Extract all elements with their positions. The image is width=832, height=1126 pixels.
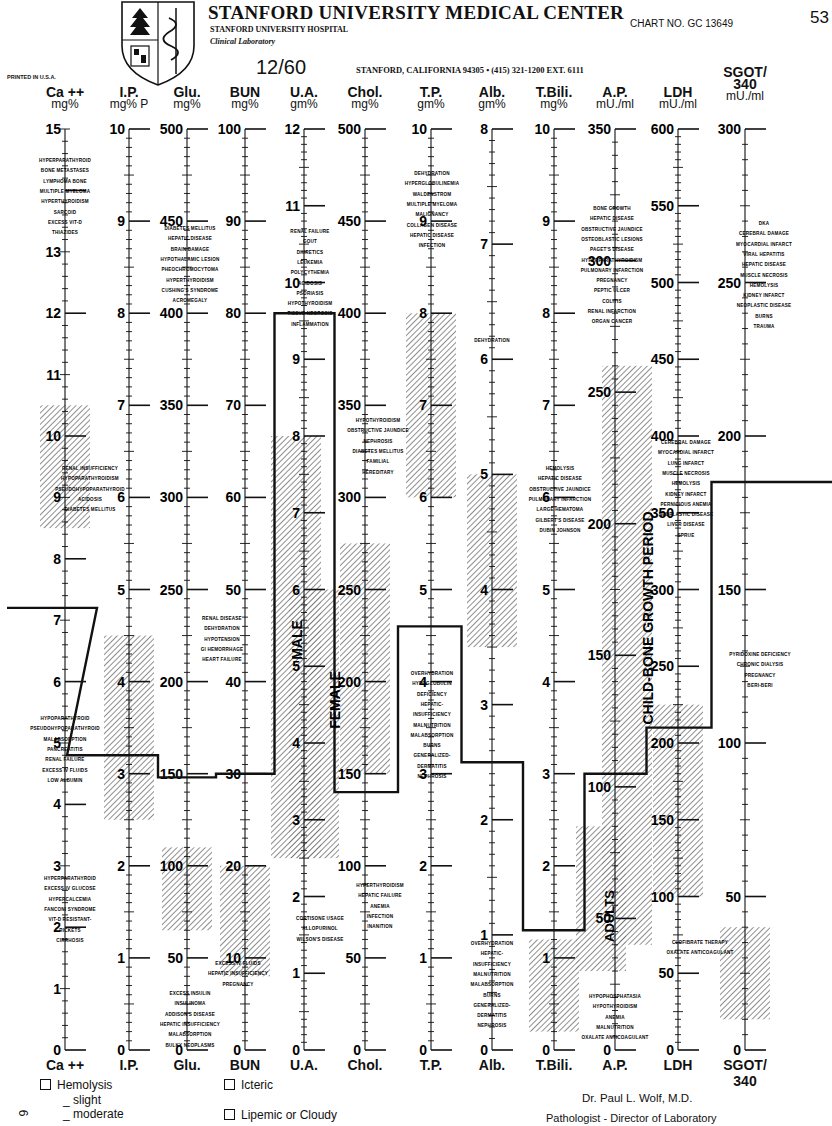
svg-text:COLLAGEN DISEASE: COLLAGEN DISEASE (407, 223, 457, 228)
hemolysis-checkbox-row[interactable]: Hemolysis (40, 1078, 112, 1092)
svg-text:DERMATITIS: DERMATITIS (477, 1013, 507, 1018)
svg-text:7: 7 (480, 236, 488, 252)
svg-text:CEREBRAL DAMAGE: CEREBRAL DAMAGE (661, 440, 711, 445)
svg-text:INFLAMMATION: INFLAMMATION (291, 322, 329, 327)
slight-option[interactable]: _ slight (63, 1093, 101, 1107)
doctor-title: Pathologist - Director of Laboratory (546, 1112, 717, 1124)
svg-text:PSEUDOHYPOPARATHYROID: PSEUDOHYPOPARATHYROID (30, 726, 100, 731)
svg-text:CLOFIBRATE THERAPY: CLOFIBRATE THERAPY (672, 940, 728, 945)
svg-text:0: 0 (117, 1042, 125, 1058)
svg-text:KIDNEY INFARCT: KIDNEY INFARCT (665, 492, 706, 497)
svg-text:BONE METASTASES: BONE METASTASES (41, 168, 89, 173)
svg-text:HYPOTHALAMIC LESION: HYPOTHALAMIC LESION (160, 257, 220, 262)
svg-text:350: 350 (338, 397, 362, 413)
svg-text:OBSTRUCTIVE JAUNDICE: OBSTRUCTIVE JAUNDICE (347, 428, 409, 433)
svg-text:CUSHING'S SYNDROME: CUSHING'S SYNDROME (162, 288, 219, 293)
svg-text:VIRAL HEPATITIS: VIRAL HEPATITIS (743, 252, 784, 257)
lipemic-checkbox-row[interactable]: Lipemic or Cloudy (224, 1108, 337, 1122)
svg-text:HYPOTHYROIDISM: HYPOTHYROIDISM (593, 1004, 638, 1009)
svg-text:HEREDITARY: HEREDITARY (362, 470, 393, 475)
svg-text:4: 4 (542, 674, 550, 690)
svg-text:200: 200 (160, 674, 184, 690)
svg-text:0: 0 (292, 1042, 300, 1058)
svg-text:400: 400 (338, 305, 362, 321)
moderate-option[interactable]: _ moderate (63, 1107, 124, 1121)
svg-text:CORTISONE USAGE: CORTISONE USAGE (296, 916, 344, 921)
svg-text:9: 9 (117, 213, 125, 229)
svg-text:100: 100 (588, 779, 612, 795)
svg-text:MALABSORPTION: MALABSORPTION (43, 737, 87, 742)
svg-text:DKA: DKA (759, 221, 770, 226)
svg-text:CIRRHOSIS: CIRRHOSIS (56, 938, 83, 943)
svg-text:3: 3 (292, 812, 300, 828)
svg-text:1: 1 (53, 981, 61, 997)
svg-text:9: 9 (292, 351, 300, 367)
svg-text:7: 7 (419, 397, 427, 413)
svg-text:WALDENSTROM: WALDENSTROM (413, 192, 452, 197)
svg-text:CHRONIC DIALYSIS: CHRONIC DIALYSIS (737, 662, 784, 667)
svg-text:1: 1 (117, 950, 125, 966)
svg-text:LOW ALBUMIN: LOW ALBUMIN (47, 778, 83, 783)
svg-text:KIDNEY INFARCT: KIDNEY INFARCT (743, 293, 784, 298)
svg-text:90: 90 (225, 213, 241, 229)
svg-text:8: 8 (480, 121, 488, 137)
svg-text:MULTIPLE MYELOMA: MULTIPLE MYELOMA (40, 189, 91, 194)
icteric-checkbox-row[interactable]: Icteric (224, 1078, 273, 1092)
svg-text:150: 150 (588, 647, 612, 663)
svg-text:11: 11 (285, 198, 300, 214)
svg-text:6: 6 (419, 489, 427, 505)
svg-text:500: 500 (160, 121, 184, 137)
svg-text:HEART FAILURE: HEART FAILURE (202, 657, 241, 662)
svg-text:MALIGNANCY: MALIGNANCY (415, 212, 448, 217)
svg-text:5: 5 (419, 582, 427, 598)
annotation-ua-low: CORTISONE USAGEALLOPURINOLWILSON'S DISEA… (296, 916, 344, 942)
svg-text:5: 5 (480, 466, 488, 482)
hemolysis-label: Hemolysis (57, 1078, 112, 1092)
annotation-glu-low: EXCESS INSULININSULINOMAADDISON'S DISEAS… (160, 991, 220, 1048)
svg-text:GENERALIZED-: GENERALIZED- (414, 753, 451, 758)
svg-text:50: 50 (725, 889, 741, 905)
annotation-alb-low: OVERHYDRATIONHEPATIC-INSUFFICIENCYMALNUT… (470, 941, 514, 1028)
chemistry-profile-chart: 1513121110987654321010987654321050045040… (0, 0, 832, 1126)
svg-text:15: 15 (45, 121, 61, 137)
svg-text:450: 450 (338, 213, 362, 229)
svg-text:550: 550 (651, 198, 675, 214)
svg-text:DIURETICS: DIURETICS (297, 250, 324, 255)
svg-text:2: 2 (117, 858, 125, 874)
svg-text:3: 3 (542, 766, 550, 782)
svg-text:HYPERPARATHYROID: HYPERPARATHYROID (39, 158, 92, 163)
svg-text:4: 4 (480, 582, 488, 598)
hemolysis-checkbox[interactable] (40, 1079, 51, 1090)
icteric-label: Icteric (241, 1078, 273, 1092)
svg-text:8: 8 (53, 551, 61, 567)
svg-text:HEPATIC DISEASE: HEPATIC DISEASE (410, 233, 454, 238)
svg-text:OBSTRUCTIVE JAUNDICE: OBSTRUCTIVE JAUNDICE (529, 487, 591, 492)
svg-text:200: 200 (588, 516, 612, 532)
svg-text:150: 150 (651, 812, 675, 828)
annotation-chol-low: HYPERTHYROIDISMHEPATIC FAILUREANEMIAINFE… (356, 883, 404, 929)
svg-text:MALABSORPTION: MALABSORPTION (470, 982, 514, 987)
svg-text:HEPATIC-: HEPATIC- (481, 951, 504, 956)
svg-text:MUSCLE NECROSIS: MUSCLE NECROSIS (740, 273, 788, 278)
svg-text:GENERALIZED-: GENERALIZED- (474, 1003, 511, 1008)
svg-text:HEPATIC FAILURE: HEPATIC FAILURE (358, 893, 401, 898)
svg-text:ADDISON'S DISEASE: ADDISON'S DISEASE (165, 1012, 215, 1017)
moderate-label: moderate (73, 1107, 124, 1121)
svg-text:HYPOTENSION: HYPOTENSION (204, 637, 240, 642)
svg-text:OVERHYDRATION: OVERHYDRATION (471, 941, 514, 946)
svg-text:HEMOLYSIS: HEMOLYSIS (672, 481, 700, 486)
svg-text:7: 7 (292, 505, 300, 521)
annotation-tp-high: DEHYDRATIONHYPERGLOBULINEMIAWALDENSTROMM… (405, 171, 460, 248)
svg-text:150: 150 (338, 766, 362, 782)
svg-text:MULTIPLE MYELOMA: MULTIPLE MYELOMA (407, 202, 458, 207)
svg-text:2: 2 (480, 812, 488, 828)
svg-text:BERI-BERI: BERI-BERI (747, 683, 772, 688)
lipemic-checkbox[interactable] (224, 1109, 235, 1120)
icteric-checkbox[interactable] (224, 1079, 235, 1090)
svg-text:DIABETES MELLITUS: DIABETES MELLITUS (65, 507, 116, 512)
svg-text:NEOPLASTIC DISEASE: NEOPLASTIC DISEASE (737, 303, 792, 308)
svg-text:9: 9 (53, 489, 61, 505)
male-range-label: MALE (289, 620, 305, 660)
svg-text:PULMONARY INFARCTION: PULMONARY INFARCTION (581, 268, 644, 273)
svg-text:BURNS: BURNS (423, 743, 440, 748)
